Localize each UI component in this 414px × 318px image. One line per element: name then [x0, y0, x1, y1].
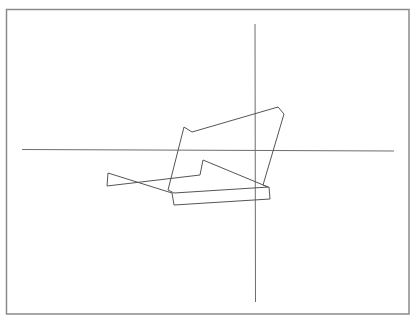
line-drawing-canvas [0, 0, 414, 318]
data-path [107, 107, 284, 205]
vertical-axis [255, 24, 256, 302]
horizontal-axis [22, 150, 394, 152]
